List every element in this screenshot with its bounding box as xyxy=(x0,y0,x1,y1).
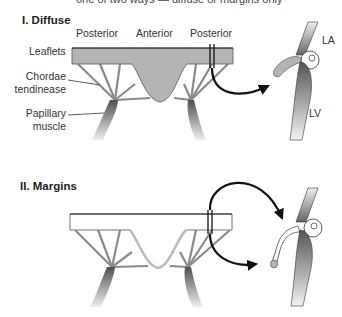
leaflet-diffuse xyxy=(72,48,233,102)
papillary-muscle-right-2 xyxy=(184,267,203,307)
arrow-lower-margins xyxy=(210,234,256,265)
left-atrium-wall xyxy=(296,22,318,55)
heart-cross-section-diffuse xyxy=(273,22,319,140)
papillary-muscle-left-2 xyxy=(90,267,115,307)
margins-valve-schematic xyxy=(70,183,322,307)
diffuse-valve-schematic xyxy=(68,22,319,140)
arrow-upper-margins xyxy=(210,183,282,218)
leaflet-thickened xyxy=(273,57,301,77)
left-ventricle-wall-2 xyxy=(291,230,312,306)
mitral-valve-diagram xyxy=(0,0,342,317)
papillary-muscle-right xyxy=(187,100,206,140)
left-ventricle-wall xyxy=(290,62,312,140)
heart-cross-section-margins xyxy=(271,188,323,306)
papillary-muscle-left xyxy=(92,100,118,140)
left-atrium-wall-2 xyxy=(296,188,318,222)
